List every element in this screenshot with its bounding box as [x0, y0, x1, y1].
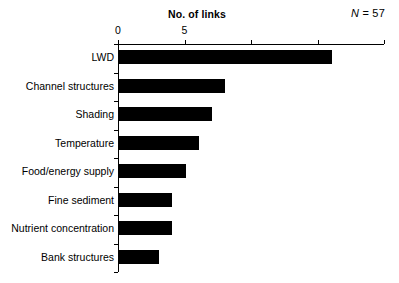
plot-area: 05: [118, 44, 384, 272]
bar: [119, 193, 172, 207]
y-axis-tick: [114, 244, 118, 245]
bar-row: [119, 244, 385, 271]
bar-row: [119, 130, 385, 157]
category-label: Nutrient concentration: [11, 215, 114, 242]
sample-size-symbol: N: [351, 7, 359, 19]
category-label: Temperature: [55, 130, 114, 157]
bar-row: [119, 73, 385, 100]
bar: [119, 136, 199, 150]
bar-row: [119, 44, 385, 71]
category-label: Fine sediment: [48, 187, 114, 214]
chart-figure: No. of links N = 57 05 LWDChannel struct…: [0, 0, 399, 283]
category-label: Food/energy supply: [22, 158, 114, 185]
y-axis-tick: [114, 215, 118, 216]
sample-size-value: = 57: [359, 7, 385, 19]
y-axis-tick: [114, 272, 118, 273]
category-label: LWD: [91, 44, 114, 71]
category-label: Bank structures: [41, 244, 114, 271]
y-axis-tick: [114, 101, 118, 102]
bar-row: [119, 215, 385, 242]
y-axis-tick: [114, 44, 118, 45]
category-label: Shading: [75, 101, 114, 128]
y-axis-tick: [114, 187, 118, 188]
y-axis-tick: [114, 130, 118, 131]
bar: [119, 250, 159, 264]
bar: [119, 50, 332, 64]
bar: [119, 107, 212, 121]
bar-row: [119, 101, 385, 128]
category-label: Channel structures: [26, 73, 114, 100]
bar-row: [119, 158, 385, 185]
chart-title: No. of links: [168, 8, 226, 20]
bar: [119, 79, 225, 93]
bar: [119, 164, 186, 178]
x-axis-tick-label: 0: [115, 24, 121, 36]
y-axis-tick: [114, 73, 118, 74]
x-axis-tick-label: 5: [182, 24, 188, 36]
sample-size-annotation: N = 57: [351, 7, 385, 19]
bar: [119, 221, 172, 235]
y-axis-tick: [114, 158, 118, 159]
bar-row: [119, 187, 385, 214]
